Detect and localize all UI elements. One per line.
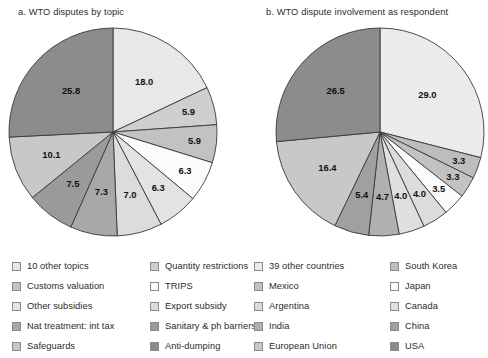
legend-label: TRIPS	[165, 281, 193, 291]
legend-item[interactable]: Anti-dumping	[150, 336, 256, 356]
legend-label: Customs valuation	[27, 281, 104, 291]
legend-swatch	[12, 342, 21, 351]
legend-label: Anti-dumping	[165, 341, 220, 351]
legend-swatch	[390, 342, 399, 351]
pie-slice-label: 6.3	[179, 165, 192, 176]
legend-item[interactable]: Quantity restrictions	[150, 256, 256, 276]
legend-label: 10 other topics	[27, 261, 89, 271]
legend-b: 39 other countriesSouth KoreaMexicoJapan…	[244, 256, 488, 356]
legend-label: USA	[405, 341, 424, 351]
legend-item[interactable]: USA	[390, 336, 488, 356]
pie-slice-label: 5.9	[188, 135, 201, 146]
legend-swatch	[12, 282, 21, 291]
chart-panel-b: b. WTO dispute involvement as respondent…	[244, 0, 488, 358]
pie-slice-label: 29.0	[418, 89, 436, 100]
legend-swatch	[254, 302, 263, 311]
legend-item[interactable]: Argentina	[254, 296, 380, 316]
legend-swatch	[390, 282, 399, 291]
pie-slice-label: 18.0	[135, 76, 153, 87]
pie-svg-b: 29.03.33.33.54.04.04.75.416.426.5	[274, 26, 486, 238]
legend-swatch	[150, 282, 159, 291]
pie-slice-label: 10.1	[42, 149, 60, 160]
legend-item[interactable]: Japan	[390, 276, 488, 296]
legend-label: Sanitary & ph barriers	[165, 321, 256, 331]
legend-swatch	[390, 262, 399, 271]
legend-label: China	[405, 321, 430, 331]
legend-item[interactable]: 10 other topics	[12, 256, 140, 276]
pie-slice-label: 4.0	[394, 190, 407, 201]
pie-slice-label: 3.3	[452, 155, 465, 166]
pie-slice	[9, 28, 113, 137]
pie-slice-label: 7.5	[66, 178, 79, 189]
legend-swatch	[254, 262, 263, 271]
pie-svg-a: 18.05.95.96.36.37.07.37.510.125.8	[7, 26, 219, 238]
pie-slice-label: 7.0	[123, 189, 136, 200]
pie-slice-label: 5.4	[355, 189, 369, 200]
pie-slice-label: 26.5	[327, 85, 345, 96]
legend-label: Argentina	[269, 301, 309, 311]
legend-item[interactable]: China	[390, 316, 488, 336]
legend-swatch	[390, 302, 399, 311]
legend-label: Safeguards	[27, 341, 75, 351]
pie-slice-label: 16.4	[318, 162, 337, 173]
pie-slice-label: 25.8	[62, 85, 80, 96]
legend-label: Export subsidy	[165, 301, 227, 311]
legend-label: Quantity restrictions	[165, 261, 248, 271]
legend-a: 10 other topicsQuantity restrictionsCust…	[0, 256, 256, 356]
legend-swatch	[12, 322, 21, 331]
legend-swatch	[254, 282, 263, 291]
legend-label: European Union	[269, 341, 337, 351]
pie-chart-a: 18.05.95.96.36.37.07.37.510.125.8	[0, 26, 244, 238]
pie-slice-label: 3.5	[432, 183, 445, 194]
pie-slice-label: 4.7	[376, 191, 389, 202]
legend-item[interactable]: India	[254, 316, 380, 336]
legend-swatch	[254, 342, 263, 351]
legend-item[interactable]: Export subsidy	[150, 296, 256, 316]
chart-title-a: a. WTO disputes by topic	[0, 7, 244, 17]
pie-slice-label: 5.9	[182, 106, 195, 117]
legend-label: Nat treatment: int tax	[27, 321, 114, 331]
legend-item[interactable]: Mexico	[254, 276, 380, 296]
legend-label: India	[269, 321, 289, 331]
legend-swatch	[150, 302, 159, 311]
pie-slice-label: 4.0	[413, 188, 426, 199]
legend-label: Canada	[405, 301, 438, 311]
legend-swatch	[150, 342, 159, 351]
legend-item[interactable]: European Union	[254, 336, 380, 356]
legend-swatch	[12, 302, 21, 311]
legend-item[interactable]: Sanitary & ph barriers	[150, 316, 256, 336]
legend-label: South Korea	[405, 261, 457, 271]
legend-label: Other subsidies	[27, 301, 92, 311]
legend-swatch	[390, 322, 399, 331]
pie-slice-label: 7.3	[95, 186, 108, 197]
legend-item[interactable]: Nat treatment: int tax	[12, 316, 140, 336]
legend-swatch	[150, 262, 159, 271]
legend-item[interactable]: Canada	[390, 296, 488, 316]
legend-label: Japan	[405, 281, 431, 291]
legend-item[interactable]: 39 other countries	[254, 256, 380, 276]
chart-panel-a: a. WTO disputes by topic 18.05.95.96.36.…	[0, 0, 244, 358]
legend-item[interactable]: TRIPS	[150, 276, 256, 296]
legend-label: 39 other countries	[269, 261, 344, 271]
legend-swatch	[12, 262, 21, 271]
pie-slice-label: 3.3	[446, 171, 459, 182]
legend-item[interactable]: Safeguards	[12, 336, 140, 356]
legend-swatch	[254, 322, 263, 331]
chart-title-b: b. WTO dispute involvement as respondent	[244, 7, 488, 17]
pie-slice-label: 6.3	[152, 182, 165, 193]
legend-swatch	[150, 322, 159, 331]
legend-item[interactable]: South Korea	[390, 256, 488, 276]
legend-item[interactable]: Customs valuation	[12, 276, 140, 296]
pie-chart-b: 29.03.33.33.54.04.04.75.416.426.5	[244, 26, 488, 238]
legend-item[interactable]: Other subsidies	[12, 296, 140, 316]
legend-label: Mexico	[269, 281, 299, 291]
